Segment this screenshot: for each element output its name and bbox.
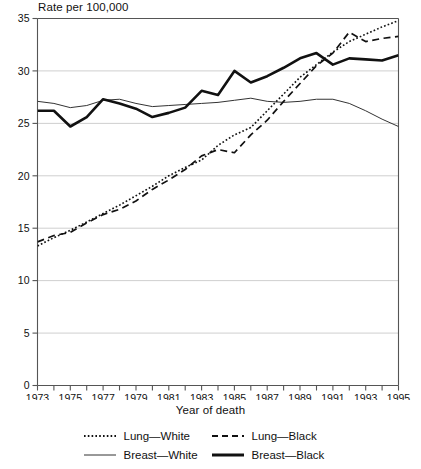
- x-axis-title: Year of death: [0, 404, 421, 416]
- x-tick-label-1991: 1991: [321, 392, 345, 401]
- legend-entry-lung-white: Lung—White: [83, 430, 211, 442]
- x-tick-label-1981: 1981: [157, 392, 181, 401]
- x-tick-label-1975: 1975: [59, 392, 83, 401]
- legend-entry-breast-white: Breast—White: [83, 449, 211, 461]
- x-tick-label-1977: 1977: [91, 392, 115, 401]
- x-tick-label-1995: 1995: [387, 392, 411, 401]
- legend-line-sample-thick-solid: [211, 450, 245, 460]
- x-tick-label-1989: 1989: [288, 392, 312, 401]
- legend-entry-lung-black: Lung—Black: [211, 430, 339, 442]
- y-tick-label-15: 15: [18, 222, 30, 234]
- legend-row-2: Breast—White Breast—Black: [0, 445, 421, 464]
- x-tick-label-1987: 1987: [256, 392, 280, 401]
- x-tick-label-1983: 1983: [190, 392, 214, 401]
- series-line-breast-black: [38, 53, 399, 126]
- chart-figure: Rate per 100,000 05101520253035197319751…: [0, 0, 421, 469]
- legend-label-breast-black: Breast—Black: [252, 449, 325, 461]
- legend-label-breast-white: Breast—White: [124, 449, 198, 461]
- series-line-lung-black: [38, 32, 399, 242]
- legend-row-1: Lung—White Lung—Black: [0, 426, 421, 445]
- series-group: [38, 21, 399, 246]
- legend-line-sample-dotted: [83, 431, 117, 441]
- y-tick-label-10: 10: [18, 274, 30, 286]
- x-tick-label-1979: 1979: [124, 392, 148, 401]
- y-tick-label-25: 25: [18, 117, 30, 129]
- y-tick-label-35: 35: [18, 12, 30, 24]
- x-tick-label-1973: 1973: [26, 392, 50, 401]
- x-tick-label-1985: 1985: [223, 392, 247, 401]
- chart-legend: Lung—White Lung—Black Breast—White Br: [0, 426, 421, 464]
- y-tick-label-0: 0: [24, 379, 30, 391]
- legend-label-lung-white: Lung—White: [124, 430, 190, 442]
- y-tick-label-20: 20: [18, 170, 30, 182]
- series-line-lung-white: [38, 21, 399, 246]
- y-tick-label-5: 5: [24, 327, 30, 339]
- legend-line-sample-thin-solid: [83, 450, 117, 460]
- legend-entry-breast-black: Breast—Black: [211, 449, 339, 461]
- legend-label-lung-black: Lung—Black: [252, 430, 317, 442]
- line-chart-plot: 0510152025303519731975197719791981198319…: [0, 0, 421, 400]
- x-tick-label-1993: 1993: [354, 392, 378, 401]
- y-tick-label-30: 30: [18, 65, 30, 77]
- legend-line-sample-dashed: [211, 431, 245, 441]
